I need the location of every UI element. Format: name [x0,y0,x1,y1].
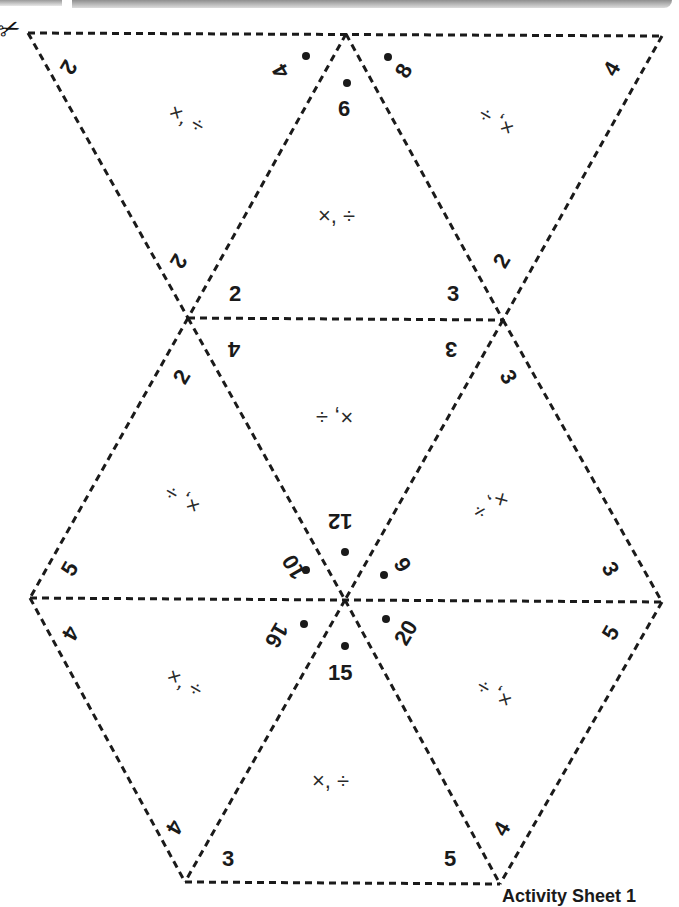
cut-line [345,320,503,600]
dot-marker [341,548,349,556]
cut-line [188,34,346,318]
corner-number: 3 [222,848,234,870]
cut-line [185,882,500,884]
operation-symbols: ×, ÷ [312,770,349,792]
corner-number: 2 [229,283,241,305]
cut-line [500,602,662,884]
dot-marker [302,52,310,60]
cut-line [345,600,500,884]
cut-line [30,598,185,882]
dot-marker [341,642,349,650]
cut-line [503,36,662,320]
dot-marker [382,615,390,623]
corner-number: 12 [328,510,352,532]
cut-line [30,318,188,598]
corner-number: 3 [445,338,457,360]
cut-line [28,33,188,318]
cut-line [503,320,662,602]
dot-marker [380,571,388,579]
cut-line [188,318,503,320]
activity-sheet-title: Activity Sheet 1 [502,886,636,907]
corner-number: 5 [444,848,456,870]
corner-number: 15 [328,662,352,684]
dot-marker [343,79,351,87]
dot-marker [302,566,310,574]
corner-number: 3 [447,283,459,305]
operation-symbols: ×, ÷ [316,406,353,428]
dot-marker [384,53,392,61]
dot-marker [300,620,308,628]
cut-line [188,318,345,600]
corner-number: 6 [338,98,350,120]
cut-line [346,34,503,320]
operation-symbols: ×, ÷ [318,205,355,227]
corner-number: 4 [228,338,240,360]
